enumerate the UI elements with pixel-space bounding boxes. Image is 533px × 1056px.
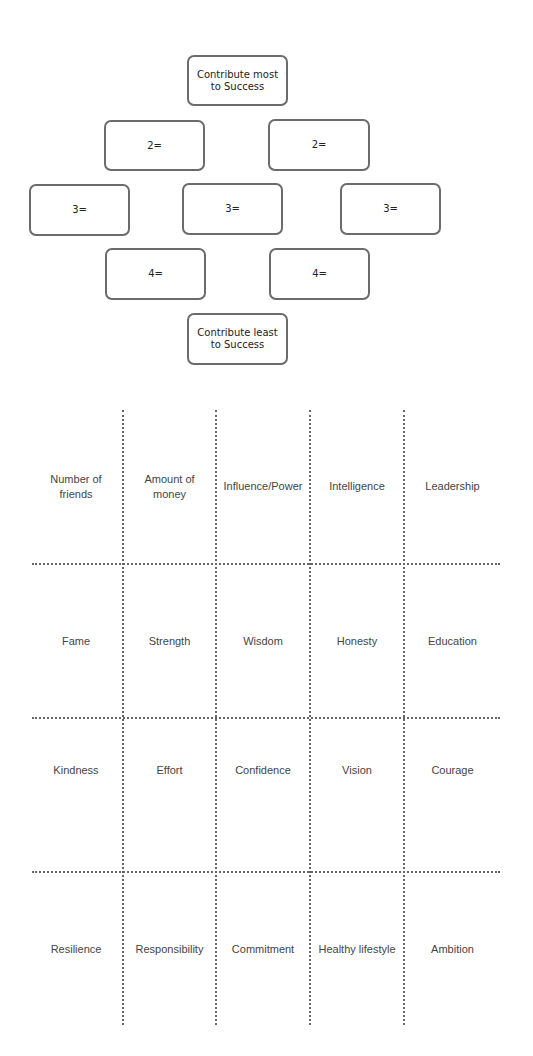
card-cell[interactable]: Strength	[124, 565, 215, 717]
card-label: Leadership	[425, 479, 479, 494]
card-cell[interactable]: Wisdom	[217, 565, 309, 717]
card-cell[interactable]: Responsibility	[124, 873, 215, 1025]
rank-label: 4=	[312, 268, 327, 280]
card-cell[interactable]: Vision	[311, 719, 403, 871]
card-cell[interactable]: Influence/Power	[217, 410, 309, 563]
card-label: Effort	[156, 763, 182, 778]
card-label: Vision	[342, 763, 372, 778]
card-cell[interactable]: Courage	[405, 719, 500, 871]
rank-label: 2=	[147, 140, 162, 152]
card-label: Confidence	[235, 763, 291, 778]
card-cell[interactable]: Kindness	[30, 719, 122, 871]
rank-label: 4=	[148, 268, 163, 280]
rank-label-bottom: Contribute least to Success	[195, 327, 280, 351]
card-cell[interactable]: Confidence	[217, 719, 309, 871]
card-cell[interactable]: Leadership	[405, 410, 500, 563]
rank-box-2b[interactable]: 2=	[268, 119, 370, 171]
card-label: Number of friends	[41, 472, 111, 502]
card-label: Resilience	[51, 942, 102, 957]
rank-box-3a[interactable]: 3=	[29, 184, 130, 236]
rank-label: 3=	[225, 203, 240, 215]
card-cell[interactable]: Honesty	[311, 565, 403, 717]
card-cell[interactable]: Amount of money	[124, 410, 215, 563]
card-label: Fame	[62, 634, 90, 649]
card-label: Intelligence	[329, 479, 385, 494]
card-label: Influence/Power	[224, 479, 303, 494]
card-label: Healthy lifestyle	[318, 942, 395, 957]
card-cell[interactable]: Number of friends	[30, 410, 122, 563]
card-cell[interactable]: Resilience	[30, 873, 122, 1025]
card-label: Honesty	[337, 634, 377, 649]
rank-box-top[interactable]: Contribute most to Success	[187, 55, 288, 106]
rank-box-4b[interactable]: 4=	[269, 248, 370, 300]
card-label: Strength	[149, 634, 191, 649]
rank-label: 2=	[312, 139, 327, 151]
card-cell[interactable]: Intelligence	[311, 410, 403, 563]
rank-box-3b[interactable]: 3=	[182, 183, 283, 235]
card-cell[interactable]: Effort	[124, 719, 215, 871]
rank-box-bottom[interactable]: Contribute least to Success	[187, 313, 288, 365]
card-cell[interactable]: Education	[405, 565, 500, 717]
card-label: Courage	[431, 763, 473, 778]
rank-box-3c[interactable]: 3=	[340, 183, 441, 235]
card-label: Education	[428, 634, 477, 649]
rank-label: 3=	[72, 204, 87, 216]
rank-label: 3=	[383, 203, 398, 215]
rank-box-2a[interactable]: 2=	[104, 120, 205, 171]
card-label: Commitment	[232, 942, 294, 957]
card-cell[interactable]: Fame	[30, 565, 122, 717]
card-cell[interactable]: Healthy lifestyle	[311, 873, 403, 1025]
card-label: Wisdom	[243, 634, 283, 649]
rank-box-4a[interactable]: 4=	[105, 248, 206, 300]
rank-label-top: Contribute most to Success	[195, 69, 280, 93]
card-label: Responsibility	[136, 942, 204, 957]
card-cell[interactable]: Commitment	[217, 873, 309, 1025]
card-label: Amount of money	[135, 472, 205, 502]
card-label: Kindness	[53, 763, 98, 778]
card-cell[interactable]: Ambition	[405, 873, 500, 1025]
card-label: Ambition	[431, 942, 474, 957]
